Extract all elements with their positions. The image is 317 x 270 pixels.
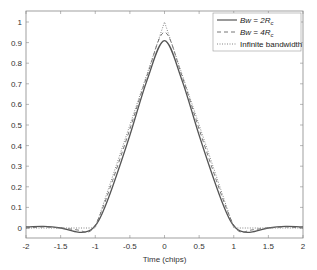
legend-label-bw2: Bw = 2Rc	[240, 16, 273, 26]
legend-label-infinite: Infinite bandwidth	[240, 40, 302, 49]
x-tick-label: -1	[92, 242, 100, 251]
y-tick-label: 0.8	[11, 59, 23, 68]
x-tick-label: 1.5	[263, 242, 275, 251]
y-tick-label: 0.3	[11, 162, 23, 171]
y-tick-label: 0.1	[11, 203, 23, 212]
y-tick-label: 0.4	[11, 142, 23, 151]
y-tick-label: 0.2	[11, 183, 23, 192]
x-tick-label: -0.5	[123, 242, 137, 251]
legend: Bw = 2Rc Bw = 4Rc Infinite bandwidth	[213, 13, 302, 51]
y-tick-label: 0.6	[11, 100, 23, 109]
x-tick-label: 0	[162, 242, 167, 251]
x-tick-label: 2	[301, 242, 306, 251]
chart: 00.10.20.30.40.50.60.70.80.91 -2-1.5-1-0…	[0, 0, 317, 270]
y-tick-label: 0	[18, 224, 23, 233]
x-tick-label: 1	[232, 242, 237, 251]
legend-label-bw4: Bw = 4Rc	[240, 28, 273, 38]
y-tick-label: 0.9	[11, 39, 23, 48]
x-axis-label: Time (chips)	[143, 255, 187, 264]
y-tick-label: 0.7	[11, 80, 23, 89]
x-tick-label: -1.5	[54, 242, 68, 251]
x-tick-label: -2	[22, 242, 30, 251]
x-tick-label: 0.5	[194, 242, 206, 251]
y-tick-label: 1	[18, 18, 23, 27]
y-tick-label: 0.5	[11, 121, 23, 130]
